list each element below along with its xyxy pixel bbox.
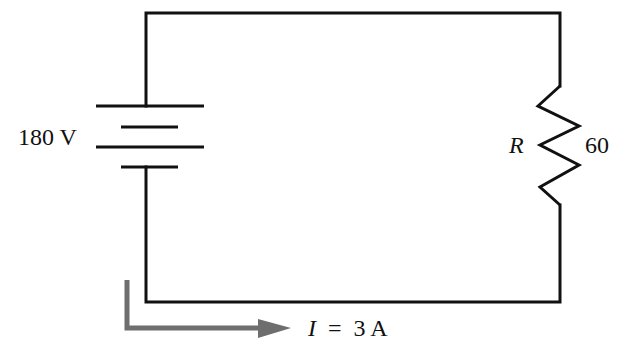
circuit-diagram: 180 V R 60 I = 3 A [0, 0, 633, 349]
resistor-value-label: 60 [585, 132, 609, 158]
circuit-wires [146, 13, 560, 302]
current-label: I = 3 A [307, 315, 388, 341]
current-direction-arrow [127, 280, 291, 338]
resistor-symbol [538, 86, 579, 205]
current-symbol: I [307, 315, 317, 341]
wire-top [146, 13, 560, 106]
current-equals: = [328, 315, 342, 341]
battery-voltage-label: 180 V [18, 124, 78, 150]
arrowhead-icon [258, 319, 291, 338]
current-value: 3 A [354, 315, 389, 341]
wire-bottom [146, 167, 560, 302]
resistor-symbol-label: R [508, 132, 524, 158]
battery-symbol [96, 106, 204, 167]
